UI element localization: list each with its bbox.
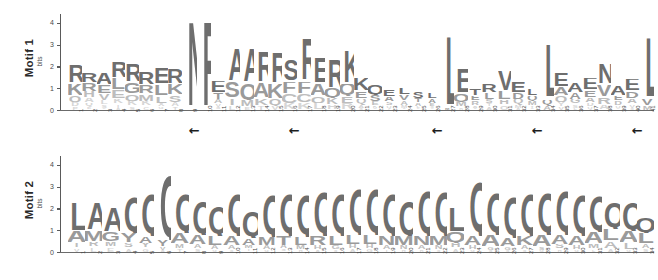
logo-residue: A [225,48,239,82]
logo-residue: Q [137,193,154,236]
logo-residue: M [139,94,153,102]
logo-residue: L [637,233,654,244]
logo-residue: A [137,236,154,244]
logo-residue: L [154,96,168,104]
position-number: 1 [80,251,86,254]
logo-residue: Q [240,84,254,100]
sequence-logo-figure: Motif 1 01234bits RKQDPRRHAQEAEVLSGRLEKI… [0,0,658,280]
position-number: 5 [135,109,141,112]
logo-stack: LQHA [447,156,464,252]
position-number: 9 [218,251,224,254]
logo-stack: RGQKS [125,14,139,110]
logo-residue: Q [378,193,395,236]
logo-stack: VLHQ [497,14,511,110]
position-number: 27 [450,105,456,112]
position-number: 2 [92,109,98,112]
position-number: 21 [425,247,431,254]
y-axis-tick [57,45,61,46]
logo-residue: Q [464,182,481,235]
position-number: 7 [164,109,170,112]
position-number: 8 [201,251,207,254]
logo-residue: Q [551,191,568,235]
position-number: 14 [264,105,270,112]
position-number: 12 [235,105,241,112]
position-number: 14 [304,247,310,254]
logo-stack: LVAMS [397,14,411,110]
logo-residue: N [182,18,196,110]
logo-residue: A [240,49,254,84]
position-number: 39 [621,105,627,112]
position-number: 41 [650,105,656,112]
logo-residue: L [447,207,464,232]
logo-residue: E [583,78,597,90]
logo-stack: AEVLSG [97,14,111,110]
position-number: 34 [649,247,655,254]
position-number: 9 [192,109,198,112]
logo-stack: RKQV [268,14,282,110]
logo-residue: A [254,83,268,98]
logo-stack: QAAS [189,156,206,252]
position-number: 1 [78,109,84,112]
logo-residue: L [640,35,654,99]
logo-stack: EQMR [454,14,468,110]
position-number: 7 [183,251,189,254]
reverse-strand-arrow: ← [532,127,543,135]
logo-residue: A [240,238,257,246]
logo-residue: L [497,91,511,100]
logo-stack: LM [440,14,454,110]
logo-residue: L [68,202,85,231]
position-number: 22 [442,247,448,254]
position-number: 20 [350,105,356,112]
logo-residue: N [378,236,395,246]
position-number: 12 [270,247,276,254]
y-axis-tick [57,23,61,24]
position-number: 30 [580,247,586,254]
position-number: 25 [494,247,500,254]
logo-residue: Q [171,194,188,233]
position-number: 10 [207,105,213,112]
logo-stack: QYSA [120,156,137,252]
logo-stack: LAESV [425,14,439,110]
logo-residue: L [327,236,344,246]
logo-stack: LAIV [68,156,85,252]
y-axis-tick [57,187,61,188]
logo-stack: QKAS [516,156,533,252]
logo-residue: Q [206,207,223,235]
position-number: 15 [278,105,284,112]
motif-1-label: Motif 1 [23,23,35,93]
logo-stack: QLAA [602,156,619,252]
position-number: 11 [252,248,258,254]
logo-stack: KEQAS [354,14,368,110]
position-number: 10 [235,247,241,254]
logo-residue: A [68,231,85,243]
logo-stack: QAMT [240,156,257,252]
logo-residue: K [516,236,533,246]
position-number: 6 [166,251,172,254]
logo-residue: Q [413,190,430,236]
logo-residue: C [297,94,311,103]
logo-residue: K [268,84,282,99]
position-number: 18 [321,105,327,112]
logo-residue: F [282,82,296,94]
logo-residue: D [625,91,639,99]
position-number: 19 [390,247,396,254]
logo-residue: Q [340,84,354,96]
position-number: 22 [378,105,384,112]
logo-residue: Q [361,188,378,235]
y-axis-tick-label: 3 [42,41,54,48]
logo-residue: Q [275,193,292,236]
logo-residue: Q [620,203,637,231]
y-axis-line [60,156,61,252]
logo-residue: Q [568,194,585,235]
logo-stack: RLEKIA [111,14,125,110]
position-number: 17 [356,247,362,254]
position-number: 40 [635,105,641,112]
y-axis-line [60,14,61,110]
logo-residue: A [223,236,240,246]
logo-residue: Q [454,94,468,103]
logo-residue: A [464,236,481,246]
logo-residue: L [111,78,125,90]
position-number: 16 [292,105,298,112]
logo-residue: A [499,238,516,247]
position-number: 8 [178,109,184,112]
